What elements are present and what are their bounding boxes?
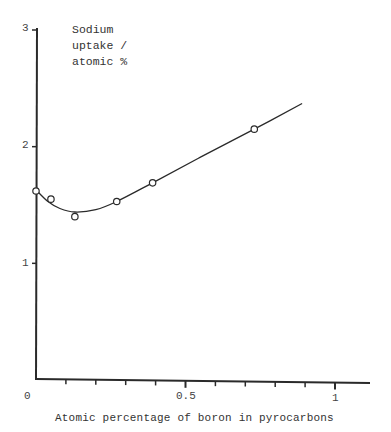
data-point-marker — [149, 180, 155, 186]
data-point-marker — [251, 126, 257, 132]
y-tick-label-3: 3 — [22, 22, 29, 34]
y-axis-label-line-1: Sodium — [72, 23, 113, 36]
x-axis-line — [36, 379, 370, 383]
y-tick-label-1: 1 — [22, 257, 29, 269]
y-axis-label-line-3: atomic % — [72, 55, 127, 68]
fitted-curve — [36, 104, 302, 213]
x-axis-label: Atomic percentage of boron in pyrocarbon… — [55, 412, 334, 424]
x-tick-label-0: 0 — [24, 390, 31, 402]
x-tick-label-1: 1 — [332, 392, 339, 404]
data-point-marker — [48, 196, 54, 202]
data-point-marker — [33, 188, 39, 194]
y-axis-line — [36, 28, 37, 380]
data-point-marker — [114, 198, 120, 204]
chart-canvas — [0, 0, 391, 432]
y-tick-label-2: 2 — [22, 139, 29, 151]
x-tick-label-0-5: 0.5 — [176, 390, 196, 402]
y-axis-label: Sodium uptake / atomic % — [72, 22, 127, 70]
data-point-marker — [72, 213, 78, 219]
y-axis-label-line-2: uptake / — [72, 39, 127, 52]
